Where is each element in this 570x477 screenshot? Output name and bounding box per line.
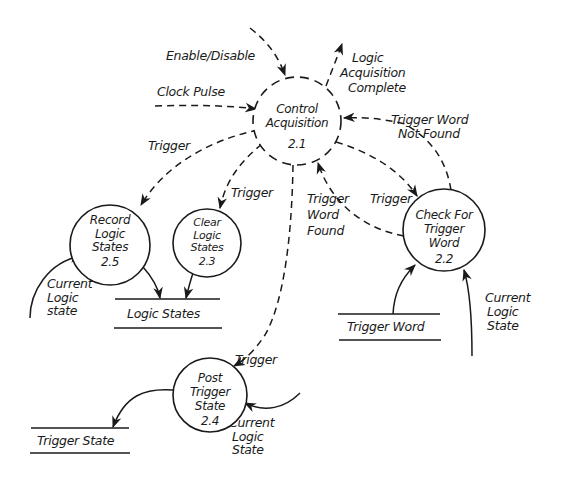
process-2-5-number: 2.5	[101, 255, 119, 269]
flow-current-logic-state-post	[245, 393, 300, 408]
process-2-5-line1: Record	[90, 213, 131, 227]
store-logic-states: Logic States	[114, 299, 222, 328]
label-clock-pulse: Clock Pulse	[157, 84, 225, 99]
label-found-line3: Found	[307, 223, 344, 238]
label-trigger-to-post: Trigger	[235, 352, 278, 367]
label-cls-check-line2: Logic	[487, 304, 519, 319]
label-found-line2: Word	[307, 207, 339, 222]
process-2-2-number: 2.2	[435, 252, 453, 266]
process-2-5-line2: Logic	[95, 227, 126, 241]
process-2-4-line1: Post	[198, 371, 224, 385]
flow-trigger-to-check	[336, 142, 417, 196]
process-2-3-line3: States	[190, 241, 224, 254]
label-logic-acq-line1: Logic	[352, 50, 384, 65]
label-cls-post-line3: State	[232, 442, 264, 457]
process-control-acquisition: Control Acquisition 2.1	[253, 77, 341, 165]
process-2-1-number: 2.1	[288, 137, 306, 151]
data-flow-diagram: Enable/Disable Clock Pulse Logic Acquisi…	[0, 0, 570, 477]
store-logic-states-label: Logic States	[127, 306, 201, 321]
label-trigger-to-clear: Trigger	[231, 185, 274, 200]
flow-clock-pulse	[155, 105, 256, 109]
label-cls-record-line3: state	[47, 303, 78, 318]
process-2-4-number: 2.4	[201, 414, 219, 428]
process-check-for-trigger-word: Check For Trigger Word 2.2	[403, 189, 485, 271]
process-record-logic-states: Record Logic States 2.5	[70, 205, 150, 285]
process-post-trigger-state: Post Trigger State 2.4	[173, 358, 247, 432]
process-2-2-line2: Trigger	[424, 222, 465, 236]
process-clear-logic-states: Clear Logic States 2.3	[173, 209, 241, 277]
store-trigger-word-label: Trigger Word	[347, 319, 425, 334]
flow-enable-disable	[250, 28, 285, 75]
flow-trigger-word-to-check	[393, 265, 415, 314]
store-trigger-word: Trigger Word	[338, 314, 441, 340]
store-trigger-state-label: Trigger State	[37, 433, 115, 448]
flow-current-logic-state-check	[464, 270, 472, 356]
flow-clear-to-logic-states	[186, 273, 193, 298]
label-trigger-to-check: Trigger	[370, 191, 413, 206]
label-logic-acq-line3: Complete	[348, 80, 406, 95]
label-enable-disable: Enable/Disable	[166, 48, 256, 63]
label-not-found-line2: Not Found	[398, 126, 460, 141]
label-trigger-to-record: Trigger	[148, 138, 191, 153]
store-trigger-state: Trigger State	[30, 428, 130, 453]
process-2-5-line3: States	[92, 240, 128, 254]
process-2-1-line2: Acquisition	[265, 116, 329, 130]
process-2-4-line2: Trigger	[190, 385, 231, 399]
process-2-3-number: 2.3	[199, 255, 216, 268]
label-cls-check-line1: Current	[485, 290, 532, 305]
process-2-3-line1: Clear	[193, 216, 222, 229]
label-logic-acq-line2: Acquisition	[339, 65, 406, 80]
label-cls-check-line3: State	[487, 318, 519, 333]
process-2-2-line1: Check For	[415, 208, 474, 222]
label-not-found-line1: Trigger Word	[391, 112, 469, 127]
flow-record-to-logic-states	[143, 267, 160, 298]
label-found-line1: Trigger	[307, 191, 350, 206]
process-2-1-line1: Control	[276, 102, 319, 116]
flow-post-to-trigger-state	[113, 390, 173, 427]
process-2-2-line3: Word	[429, 236, 460, 250]
process-2-4-line3: State	[195, 399, 225, 413]
